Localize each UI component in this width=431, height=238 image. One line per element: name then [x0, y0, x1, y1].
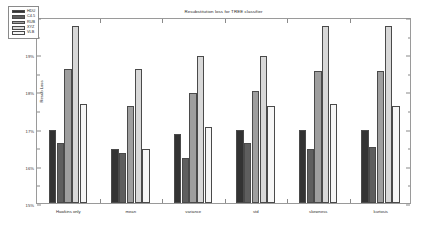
x-tick-label: mean: [126, 209, 136, 214]
legend-item[interactable]: VLB: [12, 31, 35, 36]
bar: [299, 130, 306, 203]
x-tick-label: variance: [185, 209, 201, 214]
x-tick-label: kurtosis: [374, 209, 388, 214]
bar: [189, 93, 196, 203]
y-tick-mark: [37, 205, 41, 206]
legend-label: VLB: [27, 31, 34, 35]
bar: [252, 91, 259, 203]
bar: [111, 149, 118, 203]
bar: [330, 104, 337, 203]
figure-canvas: Resubstitution loss for TREE classifier …: [0, 0, 431, 238]
plot-axes: Resub Loss 15%16%17%18%19%20% Hawkins on…: [36, 18, 411, 204]
bar: [49, 130, 56, 203]
x-tick-label: Hawkins only: [56, 209, 81, 214]
bar: [267, 106, 274, 203]
bar-group: [100, 19, 163, 203]
y-tick-label: 17%: [26, 128, 34, 133]
bar: [236, 130, 243, 203]
legend-label: C4.5: [27, 15, 35, 19]
bar: [369, 147, 376, 203]
x-tick-label: std: [253, 209, 259, 214]
legend-label: XYZ: [27, 26, 34, 30]
bar: [244, 143, 251, 203]
bar: [392, 106, 399, 203]
legend-label: HDU: [27, 10, 35, 14]
bar-group: [162, 19, 225, 203]
bar: [205, 127, 212, 203]
y-tick-label: 19%: [26, 54, 34, 59]
chart-legend[interactable]: HDUC4.5RUBXYZVLB: [8, 6, 39, 39]
y-tick-label: 15%: [26, 203, 34, 208]
y-tick-label: 18%: [26, 91, 34, 96]
y-tick-label: 16%: [26, 165, 34, 170]
bar-group: [287, 19, 350, 203]
bar: [174, 134, 181, 203]
bar: [322, 26, 329, 203]
bar: [135, 69, 142, 203]
bar: [314, 71, 321, 203]
bar: [197, 56, 204, 203]
bar: [57, 143, 64, 203]
bar: [377, 71, 384, 203]
bar: [127, 106, 134, 203]
chart-title: Resubstitution loss for TREE classifier: [36, 9, 411, 14]
bar: [182, 158, 189, 203]
bar: [119, 153, 126, 203]
bar: [64, 69, 71, 203]
legend-swatch: [12, 10, 25, 14]
legend-label: RUB: [27, 21, 35, 25]
x-tick-label: skewness: [309, 209, 327, 214]
legend-swatch: [12, 21, 25, 25]
bar: [142, 149, 149, 203]
y-tick-mark: [406, 205, 410, 206]
bar-group: [225, 19, 288, 203]
bar: [80, 104, 87, 203]
legend-swatch: [12, 15, 25, 19]
bar-group: [37, 19, 100, 203]
bar: [385, 26, 392, 203]
bar: [72, 26, 79, 203]
bar: [260, 56, 267, 203]
legend-swatch: [12, 26, 25, 30]
bar: [361, 130, 368, 203]
bar-group: [350, 19, 413, 203]
legend-swatch: [12, 31, 25, 35]
bar: [307, 149, 314, 203]
